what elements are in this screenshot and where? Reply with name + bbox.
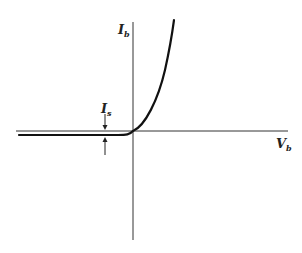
- diode-iv-diagram: Ib Vb Is: [0, 0, 302, 253]
- is-label: Is: [100, 101, 112, 118]
- iv-curve: [19, 20, 174, 135]
- y-axis-label: Ib: [117, 22, 130, 39]
- x-axis-label: Vb: [276, 136, 292, 153]
